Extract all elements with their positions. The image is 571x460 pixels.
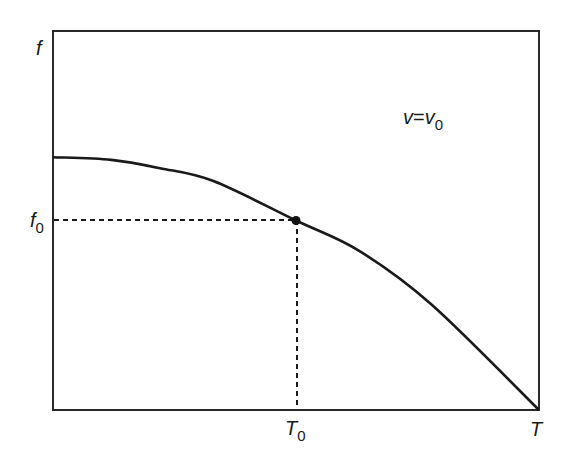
f0-label: f0 (30, 209, 44, 236)
condition-annotation: v=v0 (403, 106, 443, 133)
operating-point-marker (292, 216, 301, 225)
f-vs-T-diagram: f f0 T0 T v=v0 (0, 0, 571, 460)
t0-label: T0 (285, 417, 306, 444)
y-axis-label: f (36, 37, 44, 59)
x-axis-label: T (530, 418, 544, 440)
